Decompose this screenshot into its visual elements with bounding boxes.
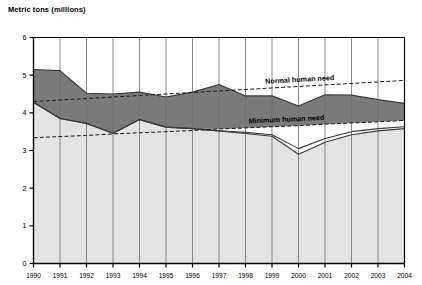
- x-axis-ticks: 1990199119921993199419951996199719981999…: [26, 264, 412, 279]
- svg-text:1997: 1997: [212, 272, 227, 279]
- svg-text:2: 2: [23, 185, 27, 192]
- svg-text:2002: 2002: [344, 272, 359, 279]
- svg-text:1994: 1994: [132, 272, 147, 279]
- svg-text:1990: 1990: [26, 272, 41, 279]
- chart-plot: 0123456 19901991199219931994199519961997…: [0, 0, 422, 285]
- svg-text:4: 4: [23, 109, 27, 116]
- svg-text:5: 5: [23, 72, 27, 79]
- svg-text:1992: 1992: [79, 272, 94, 279]
- svg-text:2000: 2000: [291, 272, 306, 279]
- svg-text:0: 0: [23, 260, 27, 267]
- svg-text:6: 6: [23, 34, 27, 41]
- svg-text:1998: 1998: [238, 272, 253, 279]
- svg-text:1991: 1991: [53, 272, 68, 279]
- svg-text:2004: 2004: [397, 272, 412, 279]
- svg-text:3: 3: [23, 147, 27, 154]
- svg-text:1995: 1995: [159, 272, 174, 279]
- svg-text:1996: 1996: [185, 272, 200, 279]
- svg-text:1: 1: [23, 222, 27, 229]
- svg-text:2003: 2003: [371, 272, 386, 279]
- chart-container: Metric tons (millions) 0123456 199019911…: [0, 0, 422, 285]
- annotation-normal-human-need: Normal human need: [265, 73, 334, 86]
- svg-text:1993: 1993: [106, 272, 121, 279]
- svg-text:1999: 1999: [265, 272, 280, 279]
- y-axis-ticks: 0123456: [23, 34, 34, 267]
- svg-text:2001: 2001: [318, 272, 333, 279]
